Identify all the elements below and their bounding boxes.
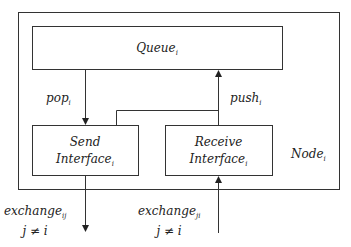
push-label: pushi: [230, 91, 262, 110]
receive-interface-sub: i: [245, 160, 247, 168]
send-to-push-connector: [117, 111, 219, 126]
queue-label: Queuei: [32, 41, 282, 60]
exchange-in-condition: j ≠ i: [138, 224, 200, 239]
exchange-out-label: exchangeij j ≠ i: [4, 204, 66, 239]
receive-interface-line2: Interfacei: [165, 151, 272, 173]
send-interface-line1: Send: [32, 134, 138, 151]
push-arrow: [117, 70, 223, 125]
queue-label-sub: i: [176, 49, 178, 57]
exchange-in-arrow: [215, 176, 222, 233]
receive-interface-line2-text: Interface: [190, 152, 246, 166]
send-interface-line2-text: Interface: [56, 152, 112, 166]
pop-label: popi: [46, 91, 71, 110]
push-label-sub: i: [259, 99, 261, 107]
node-label: Nodei: [291, 147, 326, 166]
pop-label-text: pop: [46, 91, 69, 105]
exchange-out-arrow: [82, 176, 89, 232]
send-interface-sub: i: [112, 160, 114, 168]
node-label-sub: i: [324, 155, 326, 163]
send-interface-line2: Interfacei: [32, 151, 138, 173]
node-label-text: Node: [291, 147, 324, 161]
receive-interface-line1: Receive: [165, 134, 272, 151]
exchange-in-label-text: exchange: [138, 204, 196, 218]
exchange-out-label-text: exchange: [4, 204, 62, 218]
push-label-text: push: [230, 91, 259, 105]
queue-label-text: Queue: [136, 41, 176, 55]
send-interface-label: Send Interfacei: [32, 134, 138, 173]
exchange-in-label: exchangeji j ≠ i: [138, 204, 200, 239]
receive-interface-label: Receive Interfacei: [165, 134, 272, 173]
exchange-in-label-sub: ji: [196, 212, 200, 220]
exchange-out-label-sub: ij: [62, 212, 66, 220]
pop-label-sub: i: [69, 99, 71, 107]
pop-arrow: [82, 70, 89, 125]
exchange-out-condition: j ≠ i: [4, 224, 66, 239]
